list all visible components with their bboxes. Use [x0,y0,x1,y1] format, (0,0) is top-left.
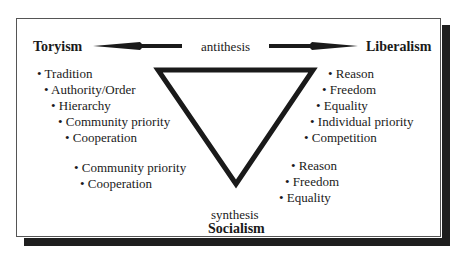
left-arrow-icon [93,42,182,50]
right-arrow-icon [269,42,358,50]
liberalism-title: Liberalism [366,39,431,54]
socialism-liberal-item: • Freedom [285,174,339,189]
liberalism-item: • Equality [316,98,368,113]
socialism-tory-item: • Community priority [74,160,186,175]
toryism-item: • Tradition [37,66,93,81]
socialism-liberal-item: • Reason [291,158,337,173]
toryism-item: • Cooperation [65,130,137,145]
liberalism-item: • Reason [328,66,374,81]
socialism-tory-item: • Cooperation [80,176,152,191]
toryism-item: • Community priority [58,114,170,129]
socialism-title: Socialism [208,221,265,236]
synthesis-label: synthesis [211,207,259,222]
liberalism-item: • Individual priority [310,114,413,129]
toryism-item: • Authority/Order [44,82,136,97]
socialism-liberal-item: • Equality [279,190,331,205]
liberalism-item: • Freedom [322,82,376,97]
toryism-item: • Hierarchy [51,98,111,113]
liberalism-item: • Competition [304,130,377,145]
antithesis-label: antithesis [201,39,250,54]
toryism-title: Toryism [33,39,82,54]
